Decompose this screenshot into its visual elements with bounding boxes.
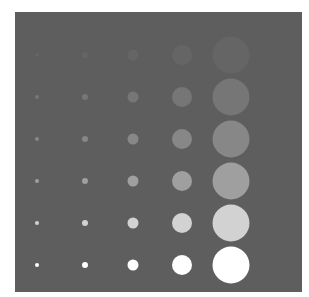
- circle-r3-c5: [213, 121, 250, 158]
- circle-r6-c5: [213, 247, 250, 284]
- circle-r1-c1: [35, 53, 39, 57]
- circle-r3-c1: [35, 137, 39, 141]
- circle-r5-c4: [172, 213, 192, 233]
- circle-r4-c1: [35, 179, 39, 183]
- stimulus-panel: [15, 12, 302, 292]
- circle-r2-c3: [128, 92, 139, 103]
- circle-r2-c1: [35, 95, 39, 99]
- circle-r4-c2: [82, 178, 88, 184]
- circle-r4-c5: [213, 163, 250, 200]
- circle-r5-c1: [35, 221, 39, 225]
- circle-r3-c3: [128, 134, 139, 145]
- circle-r5-c5: [213, 205, 250, 242]
- circle-r2-c4: [172, 87, 192, 107]
- circle-r5-c2: [82, 220, 88, 226]
- circle-r2-c5: [213, 79, 250, 116]
- circle-r3-c4: [172, 129, 192, 149]
- circle-r6-c4: [172, 255, 192, 275]
- circle-r3-c2: [82, 136, 88, 142]
- circle-r2-c2: [82, 94, 88, 100]
- circle-r4-c4: [172, 171, 192, 191]
- circle-r6-c3: [128, 260, 139, 271]
- circle-r1-c2: [82, 52, 88, 58]
- circle-r6-c2: [82, 262, 88, 268]
- circle-r1-c5: [213, 37, 250, 74]
- circle-r1-c4: [172, 45, 192, 65]
- circle-r1-c3: [128, 50, 139, 61]
- circle-r6-c1: [35, 263, 39, 267]
- circle-r4-c3: [128, 176, 139, 187]
- circle-r5-c3: [128, 218, 139, 229]
